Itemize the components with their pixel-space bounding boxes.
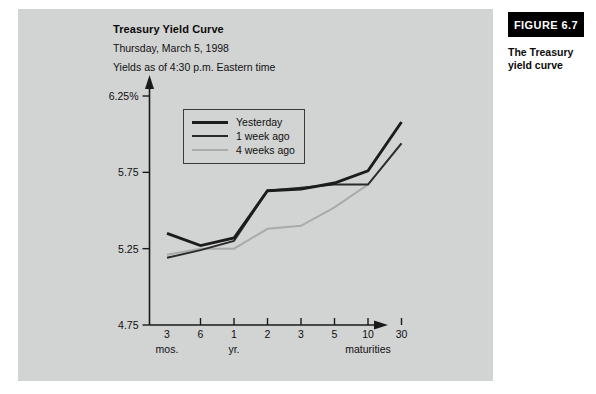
chart-panel: Treasury Yield Curve Thursday, March 5, … <box>18 9 493 381</box>
x-tick-label: 6 <box>198 328 204 340</box>
x-tick-label: 10 <box>362 328 374 340</box>
x-tick-group: 3612351030 <box>164 318 407 340</box>
legend-label-1-week-ago: 1 week ago <box>236 129 290 143</box>
x-tick-label: 3 <box>298 328 304 340</box>
legend-swatch-4-weeks-ago <box>192 149 228 151</box>
legend-label-4-weeks-ago: 4 weeks ago <box>236 143 295 157</box>
x-group-label: yr. <box>228 343 239 355</box>
x-group-label: maturities <box>345 343 391 355</box>
y-tick-label: 5.25 <box>118 243 139 255</box>
figure-number: FIGURE 6.7 <box>514 19 578 31</box>
x-tick-label: 30 <box>396 328 408 340</box>
y-axis-arrow-icon <box>145 75 154 89</box>
x-axis-arrow-icon <box>374 321 388 330</box>
y-tick-label: 5.75 <box>118 166 139 178</box>
yield-curve-plot: 4.755.255.756.25% 3612351030 mos.yr.matu… <box>18 9 493 381</box>
legend-item-1-week-ago: 1 week ago <box>192 129 295 143</box>
legend-item-4-weeks-ago: 4 weeks ago <box>192 143 295 157</box>
legend-swatch-yesterday <box>192 121 228 124</box>
legend-item-yesterday: Yesterday <box>192 115 295 129</box>
y-tick-group: 4.755.255.756.25% <box>109 90 150 331</box>
x-tick-label: 2 <box>265 328 271 340</box>
chart-legend: Yesterday 1 week ago 4 weeks ago <box>183 109 305 164</box>
figure-number-bar: FIGURE 6.7 <box>508 12 584 37</box>
y-tick-label: 6.25% <box>109 90 139 102</box>
x-group-label-group: mos.yr.maturities <box>156 343 391 355</box>
x-tick-label: 5 <box>332 328 338 340</box>
legend-label-yesterday: Yesterday <box>236 115 282 129</box>
y-tick-label: 4.75 <box>118 319 139 331</box>
figure-caption: The Treasury yield curve <box>508 46 590 72</box>
x-group-label: mos. <box>156 343 179 355</box>
x-tick-label: 1 <box>231 328 237 340</box>
x-tick-label: 3 <box>164 328 170 340</box>
legend-swatch-1-week-ago <box>192 135 228 137</box>
figure-block: FIGURE 6.7 The Treasury yield curve <box>508 12 590 72</box>
